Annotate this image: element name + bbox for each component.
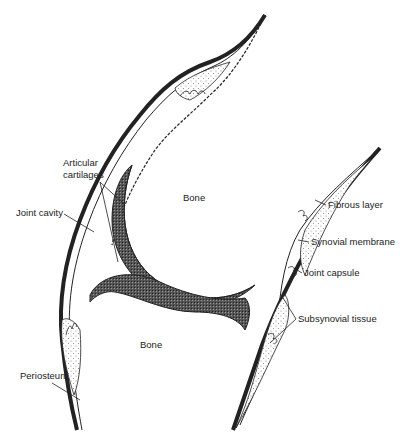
joint-diagram: Articular cartilages Joint cavity Bone B… — [0, 0, 407, 445]
lower-articular-cartilage — [90, 275, 250, 330]
label-subsynovial-tissue: Subsynovial tissue — [298, 313, 377, 324]
label-bone-upper: Bone — [183, 192, 205, 203]
left-capsule — [61, 15, 265, 430]
label-synovial-membrane: Synovial membrane — [311, 236, 395, 247]
label-articular-cartilages-1: Articular — [63, 157, 98, 168]
label-joint-cavity: Joint cavity — [16, 207, 63, 218]
label-fibrous-layer: Fibrous layer — [328, 199, 383, 210]
label-periosteum: Periosteum — [20, 370, 68, 381]
label-joint-capsule: Joint capsule — [304, 267, 359, 278]
label-bone-lower: Bone — [140, 339, 162, 350]
label-articular-cartilages-2: cartilages — [63, 169, 104, 180]
right-capsule — [233, 148, 380, 430]
